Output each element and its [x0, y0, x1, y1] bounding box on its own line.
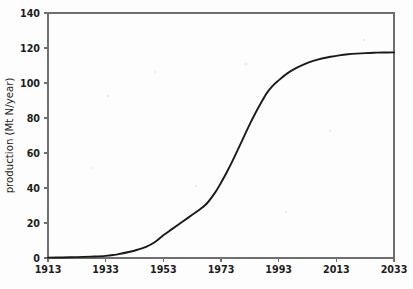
x-tick-label: 1953	[150, 264, 177, 275]
chart-figure: 020406080100120140 191319331953197319932…	[0, 0, 413, 289]
x-tick-label: 1913	[35, 264, 62, 275]
background-specks	[91, 39, 365, 213]
y-axis-ticks: 020406080100120140	[20, 8, 48, 264]
x-tick-label: 2033	[381, 264, 408, 275]
y-tick-label: 120	[20, 43, 40, 54]
data-series-group	[48, 52, 394, 257]
plot-frame	[48, 13, 394, 258]
x-tick-label: 1993	[265, 264, 292, 275]
y-axis-title: production (Mt N/year)	[4, 78, 15, 194]
chart-svg: 020406080100120140 191319331953197319932…	[0, 0, 413, 289]
y-tick-label: 100	[20, 78, 40, 89]
x-tick-label: 1973	[208, 264, 235, 275]
x-axis-ticks: 1913193319531973199320132033	[35, 258, 408, 275]
y-tick-label: 0	[33, 253, 40, 264]
y-tick-label: 40	[27, 183, 41, 194]
x-tick-label: 2013	[323, 264, 350, 275]
y-tick-label: 20	[27, 218, 41, 229]
series-line-production	[48, 52, 394, 257]
y-tick-label: 60	[27, 148, 41, 159]
x-tick-label: 1933	[92, 264, 119, 275]
y-axis-title-group: production (Mt N/year)	[4, 78, 15, 194]
y-tick-label: 140	[20, 8, 40, 19]
y-tick-label: 80	[27, 113, 41, 124]
